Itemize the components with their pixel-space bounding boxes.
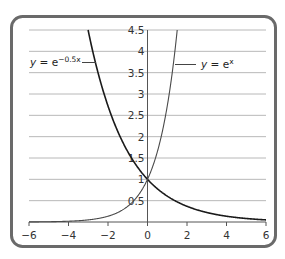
x-tick-label: −2 xyxy=(100,229,115,241)
x-tick-label: 2 xyxy=(184,229,191,241)
label-exp-x: y = ex xyxy=(200,57,234,71)
y-tick-label: 2 xyxy=(138,131,145,143)
x-tick-label: −4 xyxy=(61,229,77,241)
x-tick-label: 0 xyxy=(144,229,151,241)
y-tick-label: 3 xyxy=(138,88,145,100)
y-tick-label: 3.5 xyxy=(128,67,145,79)
y-tick-label: 2.5 xyxy=(128,109,145,121)
y-tick-label: 4.5 xyxy=(128,24,145,36)
y-tick-label: 1.5 xyxy=(128,152,145,164)
exponential-chart: 0.511.522.533.544.5 −6−4−20246 y = e−0.5… xyxy=(0,0,285,259)
x-tick-label: −6 xyxy=(21,229,37,241)
x-tick-label: 6 xyxy=(263,229,270,241)
y-tick-label: 4 xyxy=(138,45,145,57)
x-tick-label: 4 xyxy=(223,229,230,241)
